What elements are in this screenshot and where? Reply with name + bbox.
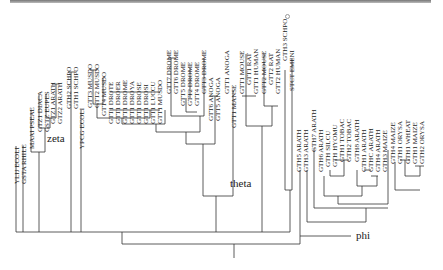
leaf-label: GTT1 MUSDO (157, 80, 164, 124)
leaf-label: GTH1 SCHPO (73, 67, 80, 109)
leaf-label: GTT1 HUMAN (253, 49, 260, 94)
clade-label-zeta: zeta (47, 132, 65, 144)
leaf-label: YPCG ECOLI (79, 108, 86, 149)
clade-label-theta: theta (230, 177, 251, 189)
leaf-label: GSTA RHILE (21, 144, 28, 184)
leaf-label: GTH3 ARATH (303, 129, 310, 172)
leaf-label: GTT5 ANOGA (215, 77, 222, 121)
leaf-label: GTH1 ORYSA (397, 121, 404, 164)
leaf-label: STCT EMENI (289, 50, 296, 91)
leaf-label: GTH2 ORYSA (419, 121, 426, 164)
leaf-label: GTH2 TOBAC (346, 119, 353, 162)
leaf-label: GTZ2 ARATH (57, 82, 64, 124)
leaf-label: GTT1 MANSE (231, 85, 238, 128)
leaf-label: GTH3 MAIZE (382, 130, 389, 172)
clade-label-phi: phi (356, 229, 370, 241)
leaf-label: MAAI PSEAE (29, 107, 36, 149)
